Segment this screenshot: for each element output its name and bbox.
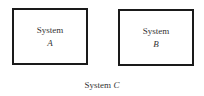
system-a-label: System <box>37 24 64 37</box>
system-c-caption: System C <box>0 79 204 91</box>
system-c-variable: C <box>113 80 119 90</box>
system-b-label: System <box>143 25 170 38</box>
system-c-label: System <box>85 80 112 90</box>
system-a-box: System A <box>12 8 88 65</box>
system-b-box: System B <box>118 9 194 66</box>
system-b-variable: B <box>153 38 159 51</box>
system-a-variable: A <box>47 37 53 50</box>
